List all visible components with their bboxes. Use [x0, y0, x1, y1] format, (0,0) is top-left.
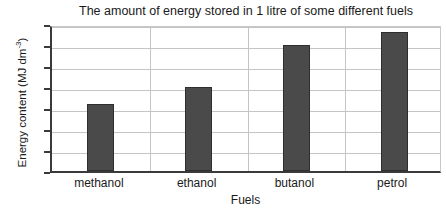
y-axis-title: Energy content (MJ dm-3) [16, 23, 29, 183]
y-tick-mark [44, 46, 50, 48]
x-tick-label-butanol: butanol [245, 176, 343, 190]
chart-title: The amount of energy stored in 1 litre o… [50, 3, 442, 19]
gridline-vertical [248, 27, 249, 171]
bar-petrol [381, 32, 408, 171]
y-tick-mark [44, 130, 50, 132]
y-tick-mark [44, 109, 50, 111]
x-tick-label-methanol: methanol [50, 176, 148, 190]
plot-area [50, 26, 441, 173]
y-axis-title-superscript: -3 [14, 41, 23, 48]
gridline-vertical [345, 27, 346, 171]
gridline-horizontal [52, 27, 440, 28]
y-tick-mark [44, 67, 50, 69]
y-tick-mark [44, 25, 50, 27]
y-axis-title-text: Energy content (MJ dm [16, 49, 28, 168]
x-axis-title: Fuels [50, 193, 441, 207]
y-axis-title-tail: ) [16, 38, 28, 42]
bar-ethanol [185, 87, 212, 171]
bar-methanol [87, 104, 114, 171]
bar-chart-figure: The amount of energy stored in 1 litre o… [0, 0, 446, 217]
x-tick-label-petrol: petrol [343, 176, 441, 190]
y-tick-mark [44, 172, 50, 174]
gridline-vertical [150, 27, 151, 171]
bar-butanol [283, 45, 310, 171]
x-tick-label-ethanol: ethanol [148, 176, 246, 190]
y-tick-mark [44, 88, 50, 90]
y-tick-mark [44, 151, 50, 153]
